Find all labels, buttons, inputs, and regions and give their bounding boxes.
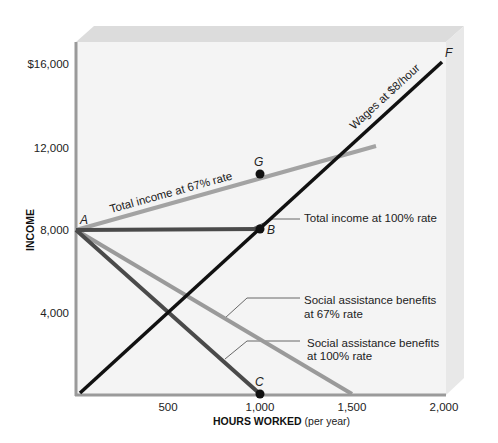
point-a-label: A — [79, 213, 88, 227]
x-tick-500: 500 — [158, 401, 177, 413]
y-tick-8000: 8,000 — [40, 224, 69, 236]
annot-benefits-100-line2: at 100% rate — [307, 350, 372, 362]
income-chart: $16,000 12,000 8,000 4,000 500 1,000 1,5… — [0, 0, 498, 443]
y-axis-title: INCOME — [24, 209, 36, 251]
point-c-label: C — [255, 375, 264, 389]
annot-benefits-100-line1: Social assistance benefits — [307, 337, 440, 349]
x-axis-title: HOURS WORKED (per year) — [213, 415, 350, 427]
point-g-label: G — [254, 155, 263, 169]
y-tick-16000: $16,000 — [27, 58, 69, 70]
y-tick-12000: 12,000 — [34, 142, 69, 154]
line-total-100 — [76, 229, 260, 230]
x-axis-title-main: HOURS WORKED — [213, 415, 302, 427]
frame-top-face — [76, 26, 464, 42]
x-tick-1500: 1,500 — [338, 401, 367, 413]
point-c-marker — [256, 390, 265, 399]
point-b-marker — [256, 225, 265, 234]
x-tick-2000: 2,000 — [430, 401, 459, 413]
point-b-label: B — [267, 223, 275, 237]
point-g-marker — [256, 170, 265, 179]
annot-benefits-67-line2: at 67% rate — [304, 308, 363, 320]
x-tick-1000: 1,000 — [246, 401, 275, 413]
frame-side-face — [446, 26, 464, 395]
x-axis-title-sub: (per year) — [302, 415, 350, 427]
y-tick-4000: 4,000 — [40, 307, 69, 319]
annot-total-100: Total income at 100% rate — [304, 212, 437, 224]
point-f-label: F — [445, 46, 453, 60]
annot-benefits-67-line1: Social assistance benefits — [304, 294, 437, 306]
